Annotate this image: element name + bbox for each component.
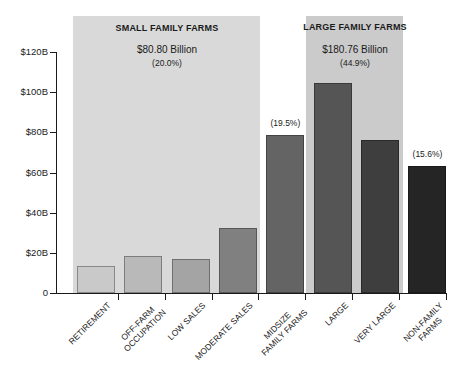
y-axis-label: 0	[8, 288, 48, 298]
y-axis-label: $20B	[8, 248, 48, 258]
small-group-title: SMALL FAMILY FARMS	[76, 23, 258, 33]
x-axis-label-low-sales: LOW SALES	[167, 301, 208, 342]
x-axis-tick	[305, 293, 306, 300]
bar-percent-label-non-family-farms: (15.6%)	[395, 149, 459, 159]
x-axis-tick	[118, 293, 119, 300]
x-axis-line	[56, 293, 447, 294]
y-axis-label: $60B	[8, 168, 48, 178]
x-axis-tick	[165, 293, 166, 300]
x-axis-tick	[352, 293, 353, 300]
bar-retirement	[77, 266, 115, 293]
y-axis-tick	[50, 92, 57, 93]
y-axis-tick	[50, 132, 57, 133]
x-axis-label-off-farm-occupation: OFF-FARM OCCUPATION	[115, 301, 168, 354]
y-axis-tick	[50, 52, 57, 53]
y-axis-tick	[50, 213, 57, 214]
x-axis-label-large: LARGE	[323, 301, 350, 328]
large-group-percent: (44.9%)	[284, 58, 426, 68]
bar-non-family-farms	[408, 166, 446, 293]
bar-midsize-family-farms	[266, 135, 304, 293]
x-axis-tick	[212, 293, 213, 300]
x-axis-tick	[258, 293, 259, 300]
bar-moderate-sales	[219, 228, 257, 293]
large-group-title: LARGE FAMILY FARMS	[284, 22, 426, 32]
small-group-percent: (20.0%)	[76, 58, 258, 68]
x-axis-tick	[399, 293, 400, 300]
y-axis-label: $120B	[8, 47, 48, 57]
x-axis-tick	[446, 293, 447, 300]
y-axis-label: $80B	[8, 127, 48, 137]
x-axis-label-retirement: RETIREMENT	[68, 301, 114, 347]
x-axis-label-midsize-family-farms: MIDSIZE FAMILY FARMS	[253, 301, 310, 358]
y-axis-tick	[50, 293, 57, 294]
bar-percent-label-midsize-family-farms: (19.5%)	[253, 118, 317, 128]
x-axis-label-very-large: VERY LARGE	[352, 301, 397, 346]
y-axis-tick	[50, 253, 57, 254]
bar-very-large	[361, 140, 399, 293]
bar-off-farm-occupation	[124, 256, 162, 293]
bar-low-sales	[172, 259, 210, 293]
y-axis-label: $100B	[8, 87, 48, 97]
large-group-total: $180.76 Billion	[284, 44, 426, 55]
small-group-total: $80.80 Billion	[76, 44, 258, 55]
y-axis-tick	[50, 173, 57, 174]
bar-large	[314, 83, 352, 293]
x-axis-label-non-family-farms: NON-FAMILY FARMS	[402, 301, 452, 351]
bar-chart: SMALL FAMILY FARMS $80.80 Billion (20.0%…	[0, 0, 467, 373]
y-axis-label: $40B	[8, 208, 48, 218]
